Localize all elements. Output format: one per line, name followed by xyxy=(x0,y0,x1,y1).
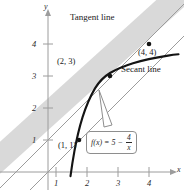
point-2-3 xyxy=(108,74,113,79)
x-tick-label-4: 4 xyxy=(147,179,151,188)
formula-fraction: 4 x xyxy=(126,134,132,151)
formula-numerator: 4 xyxy=(126,134,132,142)
callout-leader xyxy=(99,90,112,127)
formula-denominator: x xyxy=(126,144,131,152)
x-tick-label-2: 2 xyxy=(85,179,89,188)
point-label-2-3: (2, 3) xyxy=(57,57,75,66)
graph-figure xyxy=(0,0,184,190)
x-axis-arrow xyxy=(170,169,177,175)
y-axis-label: y xyxy=(44,3,48,11)
x-tick-label-1: 1 xyxy=(54,179,58,188)
secant-line-label: Secant line xyxy=(121,65,161,74)
point-1-1 xyxy=(77,138,82,143)
y-tick-label-3: 3 xyxy=(32,72,36,81)
function-formula-box: f(x) = 5 − 4 x xyxy=(86,131,137,154)
formula-minus: − xyxy=(116,138,125,147)
x-tick-label-3: 3 xyxy=(116,179,120,188)
point-label-1-1: (1, 1) xyxy=(58,141,76,150)
y-tick-label-4: 4 xyxy=(32,40,36,49)
x-axis-label: x xyxy=(177,166,181,174)
formula-equals: = xyxy=(102,138,111,147)
point-label-4-4: (4, 4) xyxy=(138,48,156,57)
point-4-4 xyxy=(147,42,152,47)
formula-function-name: f(x) xyxy=(91,138,102,147)
y-tick-label-2: 2 xyxy=(32,104,36,113)
tangent-line-label: Tangent line xyxy=(70,13,115,22)
y-tick-label-1: 1 xyxy=(32,136,36,145)
